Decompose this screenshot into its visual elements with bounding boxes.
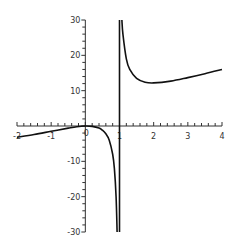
curve-series-1 [122,20,222,83]
y-tick-label: -10 [67,157,80,166]
x-tick-label: 3 [185,132,190,141]
y-tick-label: 20 [70,51,80,60]
x-tick-label: 0 [84,129,89,138]
y-tick-label: -20 [67,193,80,202]
y-tick-label: 30 [70,16,80,25]
curve-series-0 [17,126,117,232]
x-tick-label: 2 [151,132,156,141]
y-tick-label: 10 [70,87,80,96]
y-tick-label: -30 [67,228,80,237]
x-tick-label: 4 [219,132,224,141]
function-plot: -2-101234-30-20-10102030 [0,0,237,251]
x-tick-label: -1 [47,132,55,141]
